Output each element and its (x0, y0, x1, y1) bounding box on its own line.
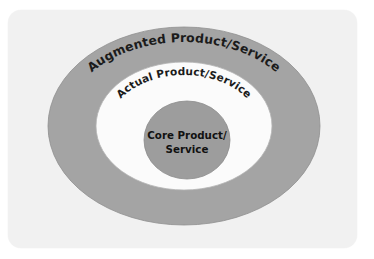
concentric-circles-diagram: Augmented Product/Service Actual Product… (0, 0, 374, 259)
ring-core-label-line2: Service (166, 143, 209, 155)
diagram-root: Augmented Product/Service Actual Product… (0, 0, 374, 259)
ring-core-label-line1: Core Product/ (147, 129, 227, 141)
